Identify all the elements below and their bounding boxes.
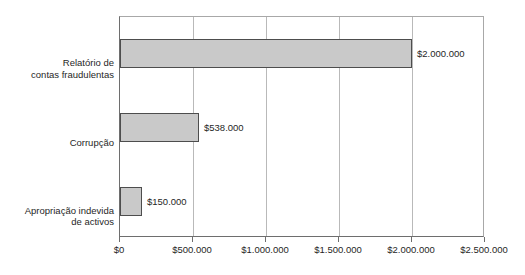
bar-value-label-corrupcao: $538.000: [204, 123, 244, 133]
bar-chart: Relatório de contas fraudulentas Corrupç…: [0, 0, 525, 275]
bar-apropriacao-indevida-de-activos[interactable]: [120, 187, 142, 216]
bar-relatorio-contas-fraudulentas[interactable]: [120, 39, 412, 68]
x-axis-tick-label: $1.500.000: [314, 245, 362, 255]
bar-value-label-relatorio-contas-fraudulentas: $2.000.000: [417, 49, 465, 59]
x-axis-tick-label: $2.000.000: [387, 245, 435, 255]
x-axis-tick-label: $0: [114, 245, 125, 255]
x-axis-tick-label: $1.000.000: [241, 245, 289, 255]
x-axis-tick: [484, 237, 485, 242]
x-axis-tick: [265, 237, 266, 242]
category-label-corrupcao: Corrupção: [2, 137, 114, 149]
plot-area: $2.000.000 $538.000 $150.000: [119, 16, 484, 237]
x-axis-tick: [119, 237, 120, 242]
x-axis-tick-label: $500.000: [172, 245, 212, 255]
bar-value-label-apropriacao-indevida-de-activos: $150.000: [147, 197, 187, 207]
x-axis-tick-label: $2.500.000: [460, 245, 508, 255]
x-axis-tick: [338, 237, 339, 242]
category-label-relatorio-contas-fraudulentas: Relatório de contas fraudulentas: [2, 57, 114, 80]
bar-corrupcao[interactable]: [120, 113, 199, 142]
gridline-2000000: [412, 17, 413, 236]
category-axis: Relatório de contas fraudulentas Corrupç…: [0, 16, 114, 237]
category-label-apropriacao-indevida-de-activos: Apropriação indevida de activos: [2, 205, 114, 228]
x-axis-tick: [192, 237, 193, 242]
x-axis-tick: [411, 237, 412, 242]
